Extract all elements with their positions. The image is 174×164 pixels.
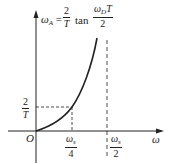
tan-curve: [36, 38, 97, 131]
x-tick-denominator: 2: [113, 148, 118, 159]
frequency-warping-diagram: ωA = 2 T tan ωDT 2 2 T O ωs 4 ωs 2 ω: [0, 0, 174, 164]
equation-lhs: ωA =: [41, 14, 62, 27]
tan-function: tan: [75, 15, 88, 26]
coef-denominator: T: [64, 18, 70, 29]
x-tick-numerator: ωs: [110, 134, 122, 148]
subscript-a: A: [49, 19, 53, 27]
omega-symbol: ω: [94, 3, 101, 14]
subscript-s: s: [118, 138, 121, 146]
equals-sign: =: [56, 13, 62, 25]
y-tick-denominator: T: [23, 109, 29, 120]
x-tick-numerator: ωs: [65, 134, 77, 148]
equation-coefficient: 2 T: [63, 6, 70, 29]
x-tick-omega-s-over-2: ωs 2: [110, 134, 122, 159]
origin-label: O: [26, 133, 34, 144]
arg-numerator: ωDT: [93, 4, 113, 18]
y-axis-arrow-icon: [34, 10, 39, 18]
omega-symbol: ω: [111, 133, 118, 144]
omega-symbol: ω: [41, 13, 49, 25]
coef-numerator: 2: [63, 6, 70, 18]
arg-denominator: 2: [100, 18, 105, 29]
x-tick-denominator: 4: [68, 148, 73, 159]
y-tick-numerator: 2: [22, 97, 29, 109]
t-symbol: T: [106, 3, 112, 14]
x-tick-omega-s-over-4: ωs 4: [65, 134, 77, 159]
omega-symbol: ω: [66, 133, 73, 144]
equation-argument: ωDT 2: [93, 4, 113, 29]
y-tick-2-over-t: 2 T: [22, 97, 29, 120]
x-axis-label: ω: [152, 134, 160, 145]
subscript-s: s: [73, 138, 76, 146]
